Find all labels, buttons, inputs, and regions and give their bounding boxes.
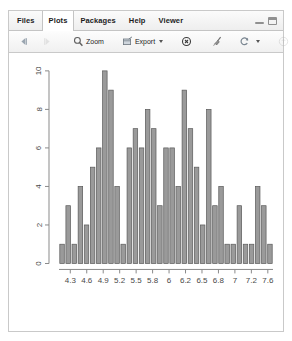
y-axis-label: 8 — [34, 107, 43, 112]
histogram-bar — [243, 244, 248, 263]
histogram-bar — [60, 244, 65, 263]
y-axis-label: 4 — [34, 184, 43, 189]
x-axis-label: 4.3 — [65, 276, 77, 285]
tab-plots[interactable]: Plots — [42, 11, 75, 31]
pane-tabbar: Files Plots Packages Help Viewer — [9, 11, 283, 31]
next-plot-button[interactable] — [38, 33, 59, 50]
x-axis-label: 6.5 — [196, 276, 208, 285]
histogram-bar — [170, 148, 175, 264]
plots-pane: Files Plots Packages Help Viewer — [8, 10, 284, 332]
histogram-bar — [145, 109, 150, 263]
x-axis-label: 4.9 — [98, 276, 110, 285]
broom-icon — [212, 36, 223, 47]
histogram-plot: 02468104.34.64.95.25.55.866.26.56.877.27… — [9, 53, 283, 331]
tabbar-spacer — [190, 11, 255, 30]
search-icon — [73, 36, 84, 47]
histogram-bar — [139, 148, 144, 264]
histogram-bar — [176, 186, 181, 263]
chevron-down-icon — [159, 40, 163, 43]
histogram-bar — [182, 90, 187, 263]
export-label: Export — [135, 38, 155, 45]
tab-files[interactable]: Files — [9, 11, 42, 30]
x-axis-label: 4.6 — [81, 276, 93, 285]
histogram-bar — [255, 186, 260, 263]
arrow-right-icon — [42, 36, 53, 47]
histogram-bar — [207, 109, 212, 263]
histogram-bar — [158, 206, 163, 264]
histogram-bar — [237, 206, 242, 264]
zoom-button[interactable]: Zoom — [69, 33, 108, 50]
publish-button[interactable] — [274, 33, 292, 50]
histogram-bar — [268, 244, 273, 263]
histogram-bar — [133, 129, 138, 264]
refresh-button[interactable] — [235, 33, 264, 50]
x-axis-label: 7 — [233, 276, 238, 285]
histogram-bar — [127, 148, 132, 264]
tab-help[interactable]: Help — [123, 11, 153, 30]
histogram-bar — [72, 244, 77, 263]
plot-canvas[interactable]: 02468104.34.64.95.25.55.866.26.56.877.27… — [9, 53, 283, 331]
y-axis-label: 0 — [34, 261, 43, 266]
minimize-icon[interactable] — [255, 17, 264, 25]
x-axis-label: 6.2 — [180, 276, 192, 285]
x-axis-label: 7.2 — [246, 276, 258, 285]
x-axis-label: 5.2 — [114, 276, 126, 285]
histogram-bar — [213, 206, 218, 264]
histogram-bar — [90, 167, 95, 263]
histogram-bar — [249, 244, 254, 263]
remove-plot-button[interactable] — [177, 33, 198, 50]
histogram-bar — [96, 148, 101, 264]
previous-plot-button[interactable] — [14, 33, 35, 50]
histogram-bar — [231, 244, 236, 263]
arrow-left-icon — [18, 36, 29, 47]
histogram-bar — [200, 225, 205, 264]
histogram-bar — [262, 206, 267, 264]
histogram-bar — [219, 186, 224, 263]
close-circle-icon — [181, 36, 192, 47]
histogram-bar — [152, 129, 157, 264]
maximize-icon[interactable] — [268, 17, 277, 25]
histogram-bar — [84, 225, 89, 264]
x-axis-label: 5.5 — [131, 276, 143, 285]
y-axis-label: 2 — [34, 222, 43, 227]
histogram-bar — [115, 186, 120, 263]
x-axis-label: 6.8 — [213, 276, 225, 285]
export-button[interactable]: Export — [118, 33, 167, 50]
histogram-bar — [194, 167, 199, 263]
histogram-bar — [188, 129, 193, 264]
y-axis-label: 6 — [34, 145, 43, 150]
histogram-bar — [225, 244, 230, 263]
chevron-down-icon-2 — [256, 40, 260, 43]
tab-packages[interactable]: Packages — [74, 11, 122, 30]
window-controls — [255, 11, 283, 30]
tab-viewer[interactable]: Viewer — [153, 11, 191, 30]
clear-all-plots-button[interactable] — [208, 33, 229, 50]
publish-icon — [278, 36, 289, 47]
histogram-bar — [121, 244, 126, 263]
x-axis-label: 5.8 — [147, 276, 159, 285]
export-icon — [122, 36, 133, 47]
histogram-bar — [78, 186, 83, 263]
histogram-bar — [164, 148, 169, 264]
histogram-bar — [66, 206, 71, 264]
histogram-bar — [109, 90, 114, 263]
x-axis-label: 6 — [167, 276, 172, 285]
x-axis-label: 7.6 — [262, 276, 274, 285]
zoom-label: Zoom — [86, 38, 104, 45]
refresh-icon — [239, 36, 250, 47]
plots-toolbar: Zoom Export — [9, 31, 283, 53]
histogram-bar — [103, 71, 108, 264]
y-axis-label: 10 — [34, 66, 43, 75]
